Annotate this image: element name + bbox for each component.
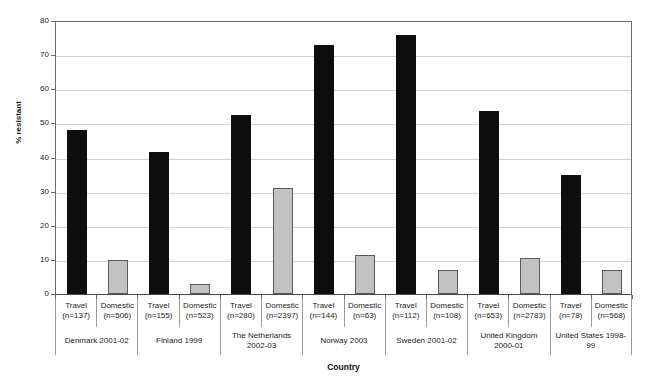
sample-size-label: (n=568) — [597, 311, 625, 321]
sample-size-label: (n=280) — [227, 311, 255, 321]
bar-the-netherlands-2002-03-travel — [231, 115, 251, 294]
sample-size-label: (n=137) — [62, 311, 90, 321]
x-axis-group-cell: Sweden 2001-02 — [385, 327, 467, 355]
x-axis-tick-mark — [632, 295, 633, 299]
bar-the-netherlands-2002-03-domestic — [273, 188, 293, 294]
gridline — [56, 193, 631, 194]
bar-finland-1999-travel — [149, 152, 169, 294]
sample-size-label: (n=63) — [353, 311, 376, 321]
series-name-label: Travel — [477, 301, 499, 311]
gridline — [56, 90, 631, 91]
x-axis-group-cell: United States 1998-99 — [550, 327, 632, 355]
x-axis-group-cell: Finland 1999 — [137, 327, 219, 355]
y-axis-tick-mark — [51, 158, 55, 159]
x-axis-series-cell: Domestic(n=523) — [179, 295, 220, 327]
x-axis-series-cell: Travel(n=112) — [385, 295, 426, 327]
x-axis-series-cell: Travel(n=137) — [55, 295, 96, 327]
y-axis-tick-label: 10 — [25, 256, 49, 264]
x-axis-tick-mark — [137, 295, 138, 299]
bar-denmark-2001-02-travel — [67, 130, 87, 294]
y-axis-tick-mark — [51, 260, 55, 261]
bar-finland-1999-domestic — [190, 284, 210, 294]
sample-size-label: (n=112) — [392, 311, 419, 321]
sample-size-label: (n=144) — [309, 311, 337, 321]
gridline — [56, 227, 631, 228]
x-axis-tick-mark — [508, 295, 509, 299]
series-name-label: Travel — [65, 301, 87, 311]
bar-norway-2003-domestic — [355, 255, 375, 294]
y-axis-tick-label: 40 — [25, 154, 49, 162]
x-axis-title: Country — [55, 362, 632, 372]
series-name-label: Domestic — [513, 301, 546, 311]
y-axis-tick-label: 60 — [25, 85, 49, 93]
x-axis-series-cell: Domestic(n=2397) — [261, 295, 302, 327]
x-axis-tick-mark — [467, 295, 468, 299]
bar-united-kingdom-2000-01-travel — [479, 111, 499, 294]
bar-united-kingdom-2000-01-domestic — [520, 258, 540, 294]
y-axis-tick-label: 20 — [25, 222, 49, 230]
x-axis-group-row: Denmark 2001-02Finland 1999The Netherlan… — [55, 327, 632, 355]
x-axis-group-cell: The Netherlands 2002-03 — [220, 327, 302, 355]
y-axis-tick-mark — [51, 55, 55, 56]
country-label: Norway 2003 — [318, 336, 369, 346]
series-name-label: Travel — [312, 301, 334, 311]
bar-norway-2003-travel — [314, 45, 334, 294]
y-axis-tick-label: 0 — [25, 290, 49, 298]
series-name-label: Travel — [395, 301, 417, 311]
y-axis-tick-label: 70 — [25, 51, 49, 59]
gridline — [56, 261, 631, 262]
y-axis-tick-label: 80 — [25, 17, 49, 25]
sample-size-label: (n=523) — [186, 311, 214, 321]
x-axis-series-cell: Domestic(n=108) — [426, 295, 467, 327]
sample-size-label: (n=653) — [474, 311, 502, 321]
gridline — [56, 56, 631, 57]
plot-area — [55, 21, 632, 295]
series-name-label: Travel — [560, 301, 582, 311]
y-axis-title: % resistant — [14, 63, 23, 183]
x-axis-series-cell: Travel(n=78) — [550, 295, 591, 327]
x-axis-tick-mark — [220, 295, 221, 299]
country-label: Sweden 2001-02 — [394, 336, 459, 346]
series-name-label: Domestic — [101, 301, 134, 311]
sample-size-label: (n=78) — [559, 311, 582, 321]
x-axis-tick-mark — [344, 295, 345, 299]
bar-sweden-2001-02-travel — [396, 35, 416, 294]
series-name-label: Travel — [148, 301, 170, 311]
series-name-label: Domestic — [430, 301, 463, 311]
sample-size-label: (n=108) — [433, 311, 461, 321]
sample-size-label: (n=2397) — [266, 311, 298, 321]
x-axis-tick-mark — [426, 295, 427, 299]
x-axis-tick-mark — [179, 295, 180, 299]
y-axis-tick-label: 30 — [25, 188, 49, 196]
x-axis-tick-mark — [385, 295, 386, 299]
bar-united-states-1998-99-domestic — [602, 270, 622, 294]
country-label: Denmark 2001-02 — [63, 336, 131, 346]
x-axis-tick-mark — [96, 295, 97, 299]
bar-sweden-2001-02-domestic — [438, 270, 458, 294]
x-axis-series-row: Travel(n=137)Domestic(n=506)Travel(n=155… — [55, 295, 632, 327]
x-axis-tick-mark — [55, 295, 56, 299]
x-axis-series-cell: Travel(n=144) — [302, 295, 343, 327]
series-name-label: Domestic — [183, 301, 216, 311]
x-axis-series-cell: Domestic(n=506) — [96, 295, 137, 327]
x-axis-series-cell: Domestic(n=568) — [591, 295, 632, 327]
x-axis-tick-mark — [550, 295, 551, 299]
series-name-label: Domestic — [595, 301, 628, 311]
bar-united-states-1998-99-travel — [561, 175, 581, 294]
x-axis-series-cell: Domestic(n=63) — [344, 295, 385, 327]
x-axis-tick-mark — [591, 295, 592, 299]
bar-denmark-2001-02-domestic — [108, 260, 128, 294]
country-label: United Kingdom 2000-01 — [468, 331, 549, 351]
x-axis-group-cell: United Kingdom 2000-01 — [467, 327, 549, 355]
x-axis-tick-mark — [302, 295, 303, 299]
sample-size-label: (n=2783) — [513, 311, 545, 321]
y-axis-tick-mark — [51, 192, 55, 193]
x-axis-series-cell: Travel(n=653) — [467, 295, 508, 327]
x-axis-group-cell: Denmark 2001-02 — [55, 327, 137, 355]
y-axis-tick-label: 50 — [25, 119, 49, 127]
y-axis-tick-mark — [51, 123, 55, 124]
country-label: Finland 1999 — [154, 336, 204, 346]
y-axis-tick-mark — [51, 21, 55, 22]
country-label: The Netherlands 2002-03 — [221, 331, 302, 351]
x-axis-tick-mark — [261, 295, 262, 299]
